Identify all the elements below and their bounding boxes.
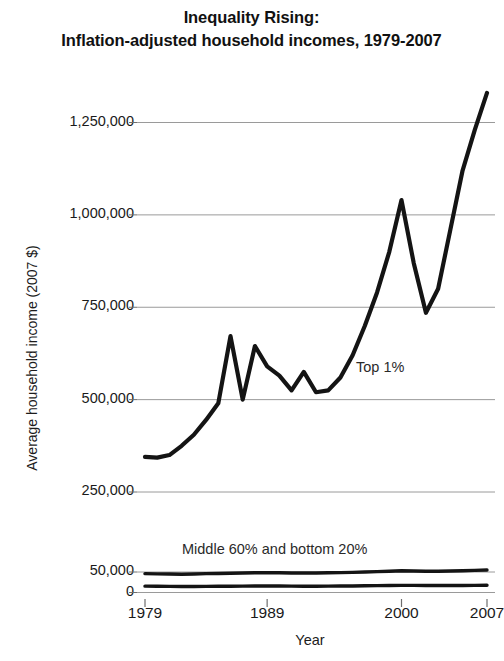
annotation-middle-bottom: Middle 60% and bottom 20% xyxy=(182,541,367,557)
series-line xyxy=(145,93,487,458)
annotation-top-1-percent: Top 1% xyxy=(356,359,404,375)
series-line xyxy=(145,585,487,586)
